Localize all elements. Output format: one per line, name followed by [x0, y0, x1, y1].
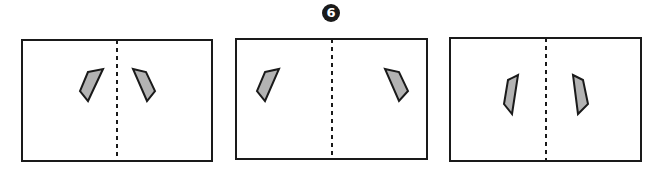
panel-3 [450, 38, 641, 161]
panel-1-right-shape [133, 69, 155, 101]
panel-3-right-shape [573, 75, 588, 114]
panel-3-left-shape [504, 75, 518, 114]
diagram-canvas [0, 0, 663, 174]
panel-2-right-shape [385, 69, 408, 101]
panel-2 [236, 39, 427, 159]
panel-2-left-shape [257, 69, 279, 101]
panel-1-left-shape [80, 69, 103, 101]
panel-1 [22, 40, 212, 161]
